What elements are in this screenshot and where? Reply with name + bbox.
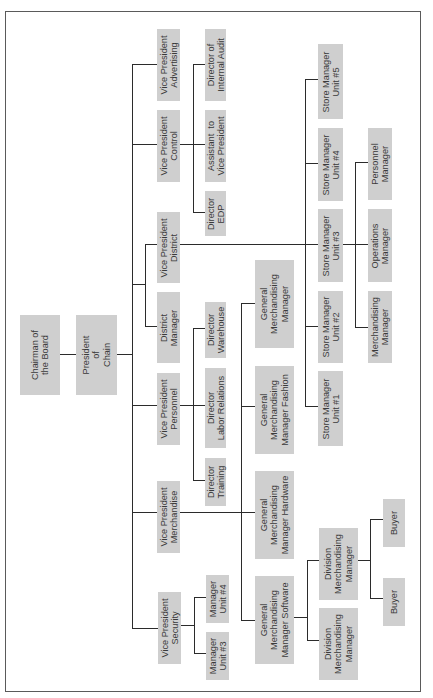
org-node-label: Merchandising Manager	[370, 297, 391, 357]
connector-line	[305, 326, 318, 327]
connector-line	[307, 640, 319, 641]
connector-line	[193, 64, 194, 213]
connector-line	[194, 653, 206, 654]
org-node-label: General Merchandising Manager Hardware	[259, 476, 290, 555]
connector-line	[132, 284, 145, 285]
org-node-vp-merchandise: Vice President Merchandise	[157, 481, 180, 553]
org-node-chairman: Chairman of the Board	[20, 315, 60, 395]
connector-line	[370, 598, 383, 599]
connector-line	[193, 328, 205, 329]
org-node-label: Manager Unit #3	[207, 638, 228, 674]
org-node-store-mgr-5: Store Manager Unit #5	[318, 44, 343, 119]
org-node-store-mgr-3: Store Manager Unit #3	[318, 209, 343, 282]
connector-line	[358, 560, 370, 561]
connector-line	[305, 79, 306, 407]
connector-line	[370, 519, 371, 599]
org-node-label: Operations Manager	[370, 223, 391, 268]
org-node-label: President of Chain	[81, 336, 112, 375]
org-node-label: Chairman of the Board	[30, 330, 51, 380]
connector-line	[132, 64, 157, 65]
connector-line	[180, 144, 193, 145]
org-node-store-mgr-4: Store Manager Unit #4	[318, 128, 343, 201]
org-node-store-mgr-2: Store Manager Unit #2	[318, 291, 343, 363]
org-node-assistant-vp: Assistant to Vice President	[205, 110, 226, 182]
org-node-operations-manager: Operations Manager	[368, 209, 392, 282]
org-node-label: Vice President Personnel	[158, 379, 179, 438]
org-node-vp-control: Vice President Control	[157, 110, 180, 182]
connector-line	[241, 406, 255, 407]
org-node-label: Store Manager Unit #4	[320, 134, 341, 195]
org-node-label: Director of Internal Audit	[205, 38, 226, 92]
connector-line	[181, 625, 194, 626]
org-node-gmm-hardware: General Merchandising Manager Hardware	[255, 471, 294, 559]
org-node-vp-personnel: Vice President Personnel	[157, 373, 180, 445]
org-node-label: Vice President Advertising	[158, 35, 179, 94]
connector-line	[343, 244, 355, 245]
org-node-label: District Manager	[158, 309, 179, 345]
org-node-label: General Merchandising Manager Fashion	[259, 374, 290, 446]
connector-line	[241, 620, 255, 621]
connector-line	[241, 303, 242, 621]
org-node-division-mm-2: Division Merchandising Manager	[319, 608, 358, 680]
connector-line	[194, 597, 195, 654]
org-node-dir-warehouse: Director Warehouse	[205, 302, 226, 358]
org-node-label: Store Manager Unit #5	[320, 51, 341, 112]
connector-line	[145, 244, 146, 327]
org-node-label: Director Training	[205, 466, 226, 499]
org-node-merchandising-manager: Merchandising Manager	[368, 291, 392, 363]
org-node-label: Manager Unit #4	[207, 581, 228, 617]
connector-line	[193, 144, 205, 145]
org-node-label: Store Manager Unit #2	[320, 297, 341, 358]
connector-line	[305, 163, 318, 164]
org-node-label: General Merchandising Manager Software	[259, 582, 290, 657]
org-node-mgr-unit-3: Manager Unit #3	[206, 632, 229, 680]
connector-line	[193, 212, 205, 213]
org-node-gmm-software: General Merchandising Manager Software	[255, 576, 294, 664]
connector-line	[194, 597, 206, 598]
connector-line	[307, 560, 319, 561]
org-node-label: Division Merchandising Manager	[323, 614, 354, 674]
connector-line	[355, 162, 368, 163]
connector-line	[355, 244, 368, 245]
org-node-label: Vice President Security	[159, 598, 180, 657]
connector-line	[193, 64, 205, 65]
connector-line	[145, 244, 157, 245]
connector-line	[193, 405, 205, 406]
org-node-label: Vice President District	[158, 218, 179, 277]
org-node-label: Vice President Merchandise	[158, 487, 179, 546]
connector-line	[355, 162, 356, 328]
connector-line	[370, 519, 383, 520]
org-node-label: Assistant to Vice President	[205, 116, 226, 175]
org-node-vp-district: Vice President District	[157, 212, 180, 283]
connector-line	[132, 405, 157, 406]
org-node-gmm-fashion: General Merchandising Manager Fashion	[255, 366, 294, 454]
connector-line	[305, 406, 318, 407]
org-node-president: President of Chain	[76, 315, 117, 395]
org-node-personnel-manager: Personnel Manager	[368, 128, 392, 200]
connector-line	[294, 617, 307, 618]
connector-line	[117, 354, 133, 355]
connector-line	[132, 628, 158, 629]
org-node-label: Store Manager Unit #3	[320, 215, 341, 276]
org-node-label: Director Labor Relations	[205, 376, 226, 440]
org-node-vp-advertising: Vice President Advertising	[157, 29, 180, 101]
connector-line	[180, 405, 193, 406]
connector-line	[241, 303, 255, 304]
org-node-division-mm-1: Division Merchandising Manager	[319, 528, 358, 600]
org-node-gmm: General Merchandising Manager	[255, 260, 294, 348]
org-node-district-manager: District Manager	[157, 292, 180, 363]
connector-line	[132, 512, 157, 513]
connector-line	[60, 354, 76, 355]
org-node-label: Buyer	[389, 590, 399, 614]
org-node-label: Vice President Control	[158, 116, 179, 175]
org-node-dir-labor: Director Labor Relations	[205, 368, 226, 448]
connector-line	[132, 144, 157, 145]
org-node-vp-security: Vice President Security	[158, 592, 181, 664]
org-node-label: Director Warehouse	[205, 307, 226, 354]
org-node-label: General Merchandising Manager	[259, 274, 290, 334]
org-node-dir-internal-audit: Director of Internal Audit	[205, 29, 226, 101]
org-node-label: Store Manager Unit #1	[320, 378, 341, 439]
org-node-buyer-2: Buyer	[383, 578, 405, 626]
org-node-label: Personnel Manager	[370, 143, 391, 184]
connector-line	[307, 560, 308, 641]
